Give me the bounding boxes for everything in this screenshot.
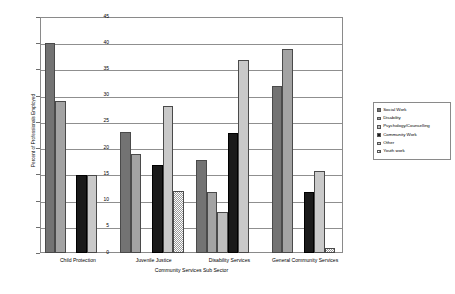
chart-legend: Social WorkDisabilityPsychology/Counsell…	[373, 102, 451, 160]
bar	[173, 191, 184, 253]
bar	[314, 171, 325, 253]
legend-swatch-icon	[377, 108, 381, 112]
bar	[163, 106, 174, 253]
bars-layer	[40, 17, 343, 253]
legend-item-label: Disability	[383, 116, 401, 121]
bar	[207, 192, 218, 253]
bar	[131, 154, 142, 253]
legend-item[interactable]: Disability	[377, 114, 448, 122]
bar	[325, 248, 336, 253]
bar	[272, 86, 283, 253]
x-axis-title: Community Services Sub Sector	[40, 268, 343, 273]
bar	[87, 175, 98, 253]
legend-swatch-icon	[377, 125, 381, 129]
legend-item[interactable]: Youth work	[377, 147, 448, 155]
bar	[304, 192, 315, 253]
x-category-label: General Community Services	[245, 258, 365, 263]
bar	[152, 165, 163, 253]
bar	[196, 160, 207, 253]
bar	[217, 212, 228, 253]
legend-item-label: Community Work	[383, 133, 417, 138]
legend-item-label: Social Work	[383, 108, 406, 113]
legend-item[interactable]: Community Work	[377, 131, 448, 139]
y-axis-title: Percent of Professionals Employed	[31, 51, 36, 211]
legend-item-label: Other	[383, 141, 394, 146]
bar	[238, 60, 249, 253]
legend-swatch-icon	[377, 117, 381, 121]
legend-swatch-icon	[377, 150, 381, 154]
y-tick-mark	[36, 253, 40, 254]
legend-item-label: Psychology/Counselling	[383, 124, 430, 129]
bar	[55, 101, 66, 253]
bar-chart: Percent of Professionals Employed 051015…	[0, 0, 455, 294]
legend-item[interactable]: Other	[377, 139, 448, 147]
bar	[120, 132, 131, 253]
legend-swatch-icon	[377, 133, 381, 137]
legend-item-label: Youth work	[383, 149, 405, 154]
legend-swatch-icon	[377, 142, 381, 146]
bar	[76, 175, 87, 253]
legend-item[interactable]: Psychology/Counselling	[377, 123, 448, 131]
bar	[282, 49, 293, 253]
legend-item[interactable]: Social Work	[377, 106, 448, 114]
bar	[228, 133, 239, 253]
bar	[45, 43, 56, 253]
